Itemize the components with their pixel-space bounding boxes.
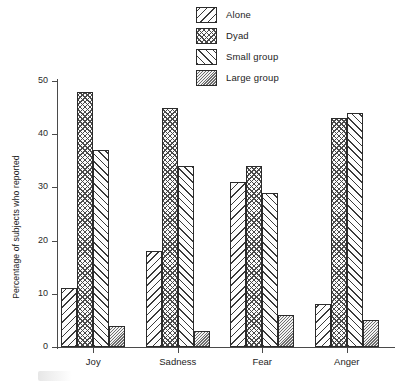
bar-group xyxy=(146,81,210,347)
bar xyxy=(146,251,162,347)
legend-swatch-dyad-icon xyxy=(196,28,217,44)
bar-chart-figure: Alone Dyad Small group Large group Perce… xyxy=(0,0,408,384)
y-tick-mark xyxy=(52,134,57,135)
bar xyxy=(77,92,93,347)
legend-item-dyad: Dyad xyxy=(196,27,346,44)
bar-group xyxy=(230,81,294,347)
bar xyxy=(230,182,246,347)
y-axis-title-text: Percentage of subjects who reported xyxy=(11,155,21,298)
bar xyxy=(246,166,262,347)
bar-group xyxy=(61,81,125,347)
y-tick-mark xyxy=(52,187,57,188)
y-tick-label: 20 xyxy=(38,235,48,245)
x-tick-mark xyxy=(347,348,348,353)
legend-label-dyad: Dyad xyxy=(226,30,249,41)
y-tick-label: 50 xyxy=(38,75,48,85)
bar xyxy=(109,326,125,347)
bar xyxy=(315,304,331,347)
caption-fragment xyxy=(38,371,78,381)
legend-swatch-alone-icon xyxy=(196,7,217,23)
legend-label-alone: Alone xyxy=(226,9,251,20)
x-tick-mark xyxy=(93,348,94,353)
y-tick-mark xyxy=(52,294,57,295)
bar xyxy=(93,150,109,347)
bar xyxy=(178,166,194,347)
bar xyxy=(278,315,294,347)
y-tick-mark xyxy=(52,347,57,348)
plot-area: 01020304050 JoySadnessFearAnger xyxy=(57,81,395,347)
legend-label-small-group: Small group xyxy=(226,51,278,62)
x-tick-label: Joy xyxy=(86,356,101,367)
x-tick-label: Fear xyxy=(252,356,272,367)
x-tick-label: Anger xyxy=(334,356,359,367)
bar xyxy=(194,331,210,347)
x-tick-mark xyxy=(178,348,179,353)
y-tick-label: 10 xyxy=(38,288,48,298)
x-tick-label: Sadness xyxy=(159,356,196,367)
bar xyxy=(347,113,363,347)
y-tick-label: 0 xyxy=(43,341,48,351)
bar xyxy=(262,193,278,347)
bar xyxy=(162,108,178,347)
legend-swatch-small-group-icon xyxy=(196,49,217,65)
bar xyxy=(331,118,347,347)
bar-group xyxy=(315,81,379,347)
x-tick-mark xyxy=(262,348,263,353)
chart-legend: Alone Dyad Small group Large group xyxy=(196,6,346,90)
bar xyxy=(363,320,379,347)
y-axis-title: Percentage of subjects who reported xyxy=(9,137,23,317)
y-tick-label: 30 xyxy=(38,181,48,191)
y-tick-label: 40 xyxy=(38,128,48,138)
bar xyxy=(61,288,77,347)
y-tick-mark xyxy=(52,81,57,82)
y-tick-mark xyxy=(52,241,57,242)
legend-item-small-group: Small group xyxy=(196,48,346,65)
x-axis-line xyxy=(57,347,395,348)
legend-item-alone: Alone xyxy=(196,6,346,23)
